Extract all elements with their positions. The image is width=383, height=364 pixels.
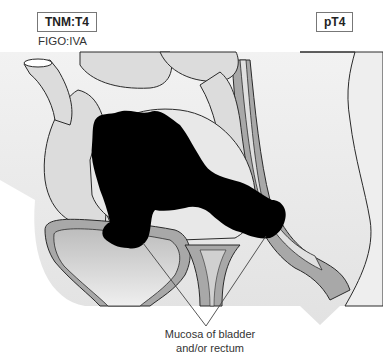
- callout-line-1: Mucosa of bladder: [155, 327, 265, 341]
- callout-label: Mucosa of bladder and/or rectum: [155, 327, 265, 355]
- tnm-stage-label: TNM:T4: [37, 12, 97, 32]
- pelvic-anatomy-illustration: [0, 0, 383, 364]
- callout-line-2: and/or rectum: [155, 341, 265, 355]
- colon-lumen: [24, 59, 52, 67]
- pathologic-stage-label: pT4: [316, 12, 353, 32]
- figo-stage-label: FIGO:IVA: [38, 35, 87, 47]
